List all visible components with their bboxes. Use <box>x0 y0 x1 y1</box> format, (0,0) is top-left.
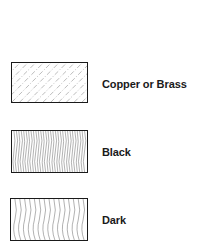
copper-brass-label: Copper or Brass <box>102 78 187 90</box>
black-label: Black <box>102 146 131 158</box>
black-swatch <box>11 130 88 173</box>
dark-swatch <box>10 198 88 241</box>
dark-label: Dark <box>102 214 126 226</box>
diagonal-hatch-pattern-icon <box>12 63 87 102</box>
sparse-wavy-lines-pattern-icon <box>11 199 87 240</box>
dense-wavy-lines-pattern-icon <box>12 131 87 172</box>
copper-brass-swatch <box>11 62 88 103</box>
